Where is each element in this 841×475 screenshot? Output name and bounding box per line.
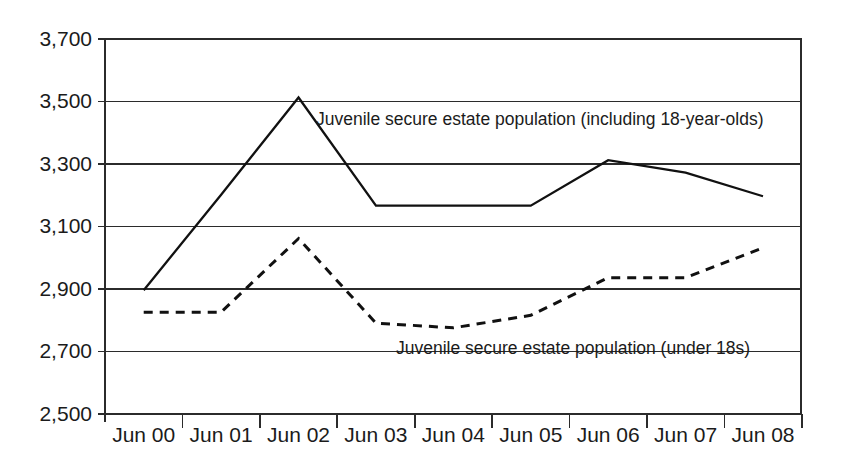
x-axis-labels: Jun 00 Jun 01 Jun 02 Jun 03 Jun 04 Jun 0…	[112, 423, 794, 446]
annotation-including-18-year-olds: Juvenile secure estate population (inclu…	[316, 109, 763, 129]
y-axis-label-1: 3,500	[39, 89, 92, 112]
annotation-under-18s: Juvenile secure estate population (under…	[396, 338, 750, 358]
x-axis-label-jun-06: Jun 06	[577, 423, 640, 446]
series-annotations: Juvenile secure estate population (inclu…	[316, 109, 763, 358]
line-chart: 3,700 3,500 3,300 3,100 2,900 2,700 2,50…	[0, 0, 841, 475]
y-axis-label-2: 3,300	[39, 152, 92, 175]
x-axis-label-jun-05: Jun 05	[499, 423, 562, 446]
x-axis-label-jun-02: Jun 02	[267, 423, 330, 446]
y-axis-label-3: 3,100	[39, 214, 92, 237]
y-axis-label-5: 2,700	[39, 339, 92, 362]
y-axis-label-4: 2,900	[39, 277, 92, 300]
y-axis-label-0: 3,700	[39, 27, 92, 50]
series-line-under-18s	[144, 239, 763, 328]
chart-canvas: 3,700 3,500 3,300 3,100 2,900 2,700 2,50…	[0, 0, 841, 475]
x-axis-label-jun-04: Jun 04	[422, 423, 485, 446]
data-series-group	[144, 98, 763, 328]
y-axis-labels: 3,700 3,500 3,300 3,100 2,900 2,700 2,50…	[39, 27, 92, 425]
x-axis-label-jun-01: Jun 01	[190, 423, 253, 446]
x-axis-label-jun-08: Jun 08	[731, 423, 794, 446]
x-axis-label-jun-07: Jun 07	[654, 423, 717, 446]
x-axis-label-jun-00: Jun 00	[112, 423, 175, 446]
y-axis-label-6: 2,500	[39, 402, 92, 425]
gridlines	[105, 39, 802, 352]
x-axis-label-jun-03: Jun 03	[344, 423, 407, 446]
